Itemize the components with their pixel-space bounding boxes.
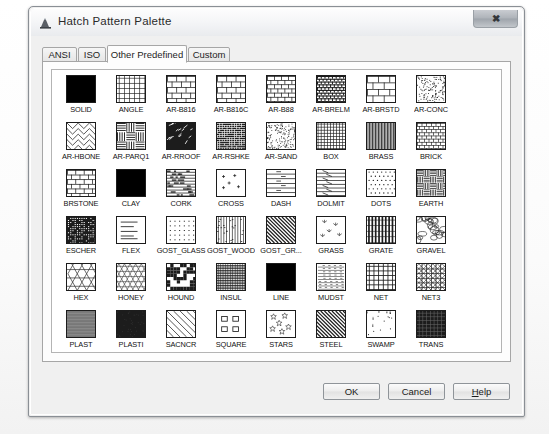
pattern-item[interactable]: GRATE bbox=[356, 216, 406, 263]
pattern-item[interactable]: CORK bbox=[156, 169, 206, 216]
pattern-swatch-brick[interactable] bbox=[416, 122, 446, 150]
pattern-swatch-mudst[interactable] bbox=[316, 263, 346, 291]
pattern-item[interactable]: AR-BRELM bbox=[306, 75, 356, 122]
pattern-swatch-dolmit[interactable] bbox=[316, 169, 346, 197]
pattern-item[interactable]: AR-B816C bbox=[206, 75, 256, 122]
pattern-item[interactable]: CROSS bbox=[206, 169, 256, 216]
pattern-item[interactable]: HOUND bbox=[156, 263, 206, 310]
pattern-item[interactable]: EARTH bbox=[406, 169, 456, 216]
pattern-swatch-gost-glass[interactable] bbox=[166, 216, 196, 244]
pattern-swatch-ar-b816c[interactable] bbox=[216, 75, 246, 103]
tab-custom[interactable]: Custom bbox=[188, 47, 230, 62]
pattern-item[interactable]: GOST_GLASS bbox=[156, 216, 206, 263]
pattern-swatch-honey[interactable] bbox=[116, 263, 146, 291]
pattern-item[interactable]: NET3 bbox=[406, 263, 456, 310]
pattern-item[interactable]: BRASS bbox=[356, 122, 406, 169]
pattern-item[interactable]: GOST_GR... bbox=[256, 216, 306, 263]
pattern-item[interactable]: HONEY bbox=[106, 263, 156, 310]
pattern-swatch-grass[interactable] bbox=[316, 216, 346, 244]
tab-ansi[interactable]: ANSI bbox=[42, 47, 77, 62]
pattern-item[interactable]: AR-PARQ1 bbox=[106, 122, 156, 169]
pattern-item[interactable]: SOLID bbox=[56, 75, 106, 122]
pattern-swatch-brass[interactable] bbox=[366, 122, 396, 150]
pattern-item[interactable]: TRANS bbox=[406, 310, 456, 353]
pattern-item[interactable]: AR-CONC bbox=[406, 75, 456, 122]
pattern-swatch-dash[interactable] bbox=[266, 169, 296, 197]
tab-other-predefined[interactable]: Other Predefined bbox=[107, 45, 187, 63]
pattern-swatch-solid[interactable] bbox=[66, 75, 96, 103]
pattern-item[interactable]: AR-HBONE bbox=[56, 122, 106, 169]
pattern-item[interactable]: INSUL bbox=[206, 263, 256, 310]
pattern-swatch-plasti[interactable] bbox=[116, 310, 146, 338]
pattern-swatch-ar-brstd[interactable] bbox=[366, 75, 396, 103]
pattern-swatch-ar-rshke[interactable] bbox=[216, 122, 246, 150]
pattern-item[interactable]: AR-B816 bbox=[156, 75, 206, 122]
pattern-swatch-ar-brelm[interactable] bbox=[316, 75, 346, 103]
pattern-swatch-ar-rroof[interactable] bbox=[166, 122, 196, 150]
pattern-item[interactable]: CLAY bbox=[106, 169, 156, 216]
pattern-swatch-hex[interactable] bbox=[66, 263, 96, 291]
pattern-swatch-ar-b88[interactable] bbox=[266, 75, 296, 103]
pattern-item[interactable]: BRSTONE bbox=[56, 169, 106, 216]
pattern-swatch-clay[interactable] bbox=[116, 169, 146, 197]
pattern-item[interactable]: ANGLE bbox=[106, 75, 156, 122]
pattern-swatch-trans[interactable] bbox=[416, 310, 446, 338]
pattern-item[interactable]: BRICK bbox=[406, 122, 456, 169]
pattern-swatch-gost-gr[interactable] bbox=[266, 216, 296, 244]
pattern-item[interactable]: GRASS bbox=[306, 216, 356, 263]
pattern-swatch-grate[interactable] bbox=[366, 216, 396, 244]
pattern-item[interactable]: DASH bbox=[256, 169, 306, 216]
pattern-swatch-cork[interactable] bbox=[166, 169, 196, 197]
pattern-item[interactable]: DOTS bbox=[356, 169, 406, 216]
pattern-swatch-insul[interactable] bbox=[216, 263, 246, 291]
pattern-item[interactable]: SQUARE bbox=[206, 310, 256, 353]
pattern-swatch-plast[interactable] bbox=[66, 310, 96, 338]
pattern-item[interactable]: PLAST bbox=[56, 310, 106, 353]
pattern-swatch-sacncr[interactable] bbox=[166, 310, 196, 338]
pattern-item[interactable]: SWAMP bbox=[356, 310, 406, 353]
pattern-swatch-ar-hbone[interactable] bbox=[66, 122, 96, 150]
pattern-swatch-swamp[interactable] bbox=[366, 310, 396, 338]
pattern-swatch-ar-b816[interactable] bbox=[166, 75, 196, 103]
pattern-swatch-net[interactable] bbox=[366, 263, 396, 291]
pattern-item[interactable]: PLASTI bbox=[106, 310, 156, 353]
pattern-swatch-stars[interactable] bbox=[266, 310, 296, 338]
pattern-swatch-box[interactable] bbox=[316, 122, 346, 150]
pattern-swatch-cross[interactable] bbox=[216, 169, 246, 197]
pattern-swatch-steel[interactable] bbox=[316, 310, 346, 338]
pattern-item[interactable]: AR-B88 bbox=[256, 75, 306, 122]
pattern-swatch-hound[interactable] bbox=[166, 263, 196, 291]
pattern-swatch-ar-conc[interactable] bbox=[416, 75, 446, 103]
pattern-item[interactable]: ESCHER bbox=[56, 216, 106, 263]
pattern-swatch-ar-sand[interactable] bbox=[266, 122, 296, 150]
close-button[interactable]: ✖ bbox=[473, 10, 518, 28]
cancel-button[interactable]: Cancel bbox=[388, 383, 445, 400]
pattern-item[interactable]: AR-BRSTD bbox=[356, 75, 406, 122]
pattern-item[interactable]: AR-RSHKE bbox=[206, 122, 256, 169]
pattern-swatch-square[interactable] bbox=[216, 310, 246, 338]
pattern-item[interactable]: GOST_WOOD bbox=[206, 216, 256, 263]
pattern-item[interactable]: HEX bbox=[56, 263, 106, 310]
pattern-swatch-ar-parq1[interactable] bbox=[116, 122, 146, 150]
pattern-item[interactable]: AR-SAND bbox=[256, 122, 306, 169]
pattern-swatch-angle[interactable] bbox=[116, 75, 146, 103]
pattern-swatch-net3[interactable] bbox=[416, 263, 446, 291]
tab-iso[interactable]: ISO bbox=[78, 47, 106, 62]
pattern-swatch-gravel[interactable] bbox=[416, 216, 446, 244]
pattern-item[interactable]: SACNCR bbox=[156, 310, 206, 353]
title-bar[interactable]: Hatch Pattern Palette ✖ bbox=[31, 9, 522, 36]
pattern-swatch-line[interactable] bbox=[266, 263, 296, 291]
pattern-item[interactable]: BOX bbox=[306, 122, 356, 169]
pattern-swatch-brstone[interactable] bbox=[66, 169, 96, 197]
help-button[interactable]: Help bbox=[453, 383, 510, 400]
ok-button[interactable]: OK bbox=[323, 383, 380, 400]
pattern-item[interactable]: STARS bbox=[256, 310, 306, 353]
pattern-swatch-gost-wood[interactable] bbox=[216, 216, 246, 244]
pattern-item[interactable]: STEEL bbox=[306, 310, 356, 353]
pattern-swatch-flex[interactable] bbox=[116, 216, 146, 244]
pattern-item[interactable]: GRAVEL bbox=[406, 216, 456, 263]
pattern-item[interactable]: DOLMIT bbox=[306, 169, 356, 216]
pattern-item[interactable]: LINE bbox=[256, 263, 306, 310]
pattern-item[interactable]: AR-RROOF bbox=[156, 122, 206, 169]
pattern-item[interactable]: NET bbox=[356, 263, 406, 310]
